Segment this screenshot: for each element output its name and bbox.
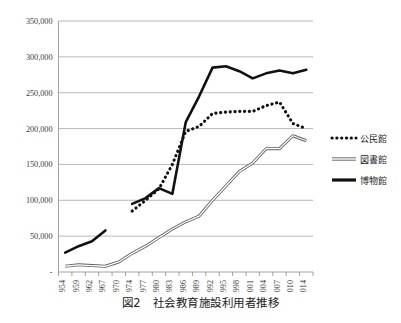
x-axis-tick-label: 2010 (286, 280, 295, 292)
y-axis-tick-label: 300,000 (26, 53, 53, 62)
chart-legend: 公民館図書館博物館 (332, 133, 387, 186)
x-axis-tick-label: 2001 (246, 280, 255, 292)
y-axis-tick-label: 350,000 (26, 17, 53, 26)
y-axis-tick-label: 100,000 (26, 196, 53, 205)
x-axis-tick-label: 1992 (206, 280, 215, 292)
x-axis-tick-label: 1977 (139, 280, 148, 292)
y-axis-tick-label: 200,000 (26, 125, 53, 134)
y-axis-tick-label: 250,000 (26, 89, 53, 98)
x-axis-tick-label: 2004 (259, 280, 268, 292)
x-axis-tick-label: 1998 (232, 280, 241, 292)
legend-label: 図書館 (360, 154, 387, 165)
line-chart-svg: 350,000300,000250,000200,000150,000100,0… (0, 0, 401, 292)
chart-plot-region: 350,000300,000250,000200,000150,000100,0… (0, 0, 401, 290)
figure-caption: 図2 社会教育施設利用者推移 (0, 294, 401, 310)
x-axis-tick-label: 1995 (219, 280, 228, 292)
legend-label: 博物館 (360, 175, 387, 186)
x-axis-tick-label: 1980 (152, 280, 161, 292)
x-axis-tick-label: 1974 (125, 280, 134, 292)
x-axis-tick-label: 1970 (112, 280, 121, 292)
x-axis-tick-label: 2014 (299, 280, 308, 292)
figure-container: 350,000300,000250,000200,000150,000100,0… (0, 0, 401, 323)
x-axis-tick-label: 1989 (192, 280, 201, 292)
y-axis-tick-label: 50,000 (30, 232, 53, 241)
x-axis-tick-label: 1967 (98, 280, 107, 292)
x-axis-tick-labels: 1954195919621967197019741977198019831986… (58, 280, 308, 292)
x-axis-tick-label: 1962 (85, 280, 94, 292)
legend-label: 公民館 (360, 133, 387, 144)
x-axis-tick-label: 2007 (273, 280, 282, 292)
series-line-toshokan-outer (65, 136, 306, 267)
y-axis-tick-label: - (50, 268, 53, 277)
series-line-hakubutsukan (65, 230, 105, 252)
series-line-hakubutsukan (132, 66, 306, 204)
x-axis-tick-marks (59, 272, 314, 276)
x-axis-tick-label: 1959 (72, 280, 81, 292)
x-axis-tick-label: 1954 (58, 280, 67, 292)
series-line-toshokan-inner (65, 136, 306, 267)
y-axis-tick-label: 150,000 (26, 160, 53, 169)
x-axis-tick-label: 1986 (179, 280, 188, 292)
y-axis-tick-labels: 350,000300,000250,000200,000150,000100,0… (26, 17, 53, 277)
x-axis-tick-label: 1983 (165, 280, 174, 292)
